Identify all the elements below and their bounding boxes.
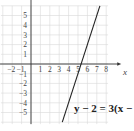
svg-text:−2: −2 xyxy=(7,65,15,74)
svg-text:8: 8 xyxy=(104,65,108,74)
svg-text:3: 3 xyxy=(57,65,61,74)
svg-text:1: 1 xyxy=(23,50,27,59)
svg-text:5: 5 xyxy=(23,11,27,20)
svg-text:−4: −4 xyxy=(19,99,27,108)
svg-text:7: 7 xyxy=(95,65,99,74)
svg-text:6: 6 xyxy=(86,65,90,74)
equation-label: y − 2 = 3(x − 6 xyxy=(74,102,134,114)
svg-text:3: 3 xyxy=(23,31,27,40)
svg-text:−2: −2 xyxy=(19,79,27,88)
svg-text:1: 1 xyxy=(39,65,43,74)
svg-text:4: 4 xyxy=(23,21,27,30)
svg-text:−3: −3 xyxy=(19,89,27,98)
svg-text:−5: −5 xyxy=(19,108,27,117)
svg-text:2: 2 xyxy=(23,40,27,49)
svg-text:−1: −1 xyxy=(19,70,27,79)
x-axis-label: x xyxy=(122,67,127,77)
svg-text:4: 4 xyxy=(67,65,71,74)
svg-text:2: 2 xyxy=(48,65,52,74)
